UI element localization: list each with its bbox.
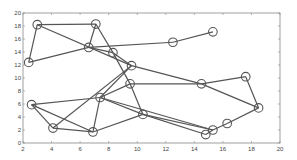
graph-edge	[173, 32, 213, 42]
graph-edge	[132, 66, 202, 84]
graph-edge	[201, 77, 245, 84]
y-tick-label: 6	[18, 101, 22, 107]
y-tick-label: 18	[14, 23, 21, 29]
graph-edge	[143, 114, 206, 134]
x-tick-label: 6	[78, 146, 82, 152]
graph-edge	[37, 24, 96, 25]
y-tick-label: 14	[14, 49, 21, 55]
y-tick-label: 12	[14, 62, 21, 68]
x-tick-label: 20	[277, 146, 284, 152]
graph-edge	[100, 98, 213, 131]
graph-edges	[29, 24, 259, 135]
y-tick-label: 20	[14, 10, 21, 16]
graph-edge	[143, 114, 213, 130]
graph-edge	[32, 98, 101, 105]
graph-edge	[89, 24, 96, 47]
x-tick-label: 8	[107, 146, 111, 152]
graph-edge	[93, 114, 143, 132]
x-tick-label: 4	[50, 146, 54, 152]
graph-edge	[29, 25, 38, 63]
x-tick-label: 10	[134, 146, 141, 152]
x-tick-label: 2	[21, 146, 25, 152]
graph-node-marker	[24, 58, 33, 67]
graph-edge	[227, 108, 258, 124]
y-tick-label: 2	[18, 127, 22, 133]
graph-edge	[89, 42, 173, 47]
y-tick-label: 10	[14, 75, 21, 81]
x-tick-label: 14	[191, 146, 198, 152]
graph-edge	[29, 47, 89, 62]
graph-edge	[53, 66, 132, 128]
x-tick-label: 16	[220, 146, 227, 152]
x-tick-label: 12	[162, 146, 169, 152]
y-tick-label: 8	[18, 88, 22, 94]
graph-edge	[93, 98, 100, 132]
y-tick-label: 16	[14, 36, 21, 42]
graph-edge	[96, 24, 113, 53]
network-graph-chart: 246810121416182002468101214161820	[0, 0, 297, 160]
graph-edge	[32, 105, 93, 132]
y-tick-label: 4	[18, 114, 22, 120]
x-tick-label: 18	[248, 146, 255, 152]
graph-edge	[100, 84, 130, 98]
